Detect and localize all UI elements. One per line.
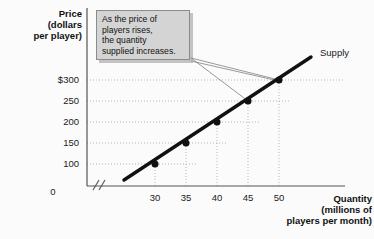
data-point-50-300	[276, 77, 283, 84]
origin-label: 0	[46, 186, 60, 197]
callout-text: As the price of players rises, the quant…	[102, 14, 188, 56]
y-tick-label-100: 100	[33, 158, 79, 169]
y-tick-label-300: $300	[33, 74, 79, 85]
data-point-45-250	[245, 98, 252, 105]
data-point-40-200	[214, 119, 221, 126]
data-point-30-100	[152, 161, 159, 168]
x-tick-label-30: 30	[142, 192, 168, 203]
x-tick-label-35: 35	[173, 192, 199, 203]
x-tick-label-50: 50	[266, 192, 292, 203]
axis-break-icon	[93, 180, 105, 190]
x-tick-label-45: 45	[235, 192, 261, 203]
gridlines-vertical	[155, 80, 279, 186]
data-point-35-150	[183, 140, 190, 147]
x-tick-label-40: 40	[204, 192, 230, 203]
y-axis-title: Price (dollars per player)	[0, 8, 82, 42]
y-tick-label-250: 250	[33, 95, 79, 106]
supply-curve-chart: Price (dollars per player) Quantity (mil…	[0, 0, 374, 239]
y-tick-label-150: 150	[33, 137, 79, 148]
y-tick-label-200: 200	[33, 116, 79, 127]
series-label-supply: Supply	[320, 47, 349, 58]
